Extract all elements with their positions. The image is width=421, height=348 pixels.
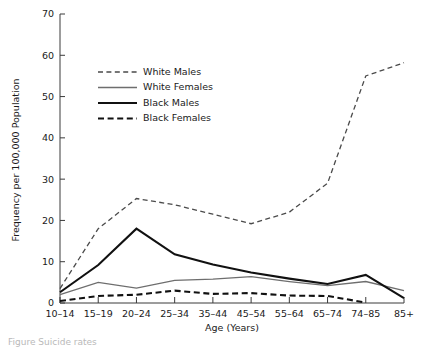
legend-label: Black Males [143,97,199,108]
x-tick-label: 55–64 [275,308,304,319]
y-tick-label: 40 [42,132,54,143]
legend-label: Black Females [143,112,211,123]
chart-legend: White MalesWhite FemalesBlack MalesBlack… [98,66,213,124]
series-line [60,63,404,289]
x-tick-label: 20–24 [122,308,151,319]
y-tick-label: 0 [48,297,54,308]
y-tick-label: 30 [42,174,54,185]
x-tick-label: 25–34 [160,308,189,319]
x-tick-label: 10–14 [46,308,75,319]
y-tick-label: 20 [42,215,54,226]
y-axis-title: Frequency per 100,000 Population [10,78,21,241]
x-tick-label: 15–19 [84,308,113,319]
x-tick-label: 85+ [394,308,414,319]
x-tick-label: 45–54 [237,308,266,319]
figure-caption: Figure Suicide rates [8,337,413,348]
legend-label: White Males [143,66,201,77]
y-tick-label: 50 [42,91,54,102]
y-tick-label: 70 [42,8,54,19]
y-tick-label: 60 [42,50,54,61]
x-axis: 10–1415–1920–2425–3435–4445–5455–6465–74… [46,297,415,319]
y-tick-label: 10 [42,256,54,267]
line-chart: 010203040506070 10–1415–1920–2425–3435–4… [0,0,421,348]
data-series-group [60,63,404,303]
x-tick-label: 65–74 [313,308,342,319]
series-line [60,229,404,298]
figure-container: 010203040506070 10–1415–1920–2425–3435–4… [0,0,421,348]
series-line [60,277,404,295]
x-tick-label: 74–85 [351,308,380,319]
x-axis-title: Age (Years) [205,322,259,333]
y-axis: 010203040506070 [42,8,65,308]
legend-label: White Females [143,81,213,92]
x-tick-label: 35–44 [198,308,227,319]
